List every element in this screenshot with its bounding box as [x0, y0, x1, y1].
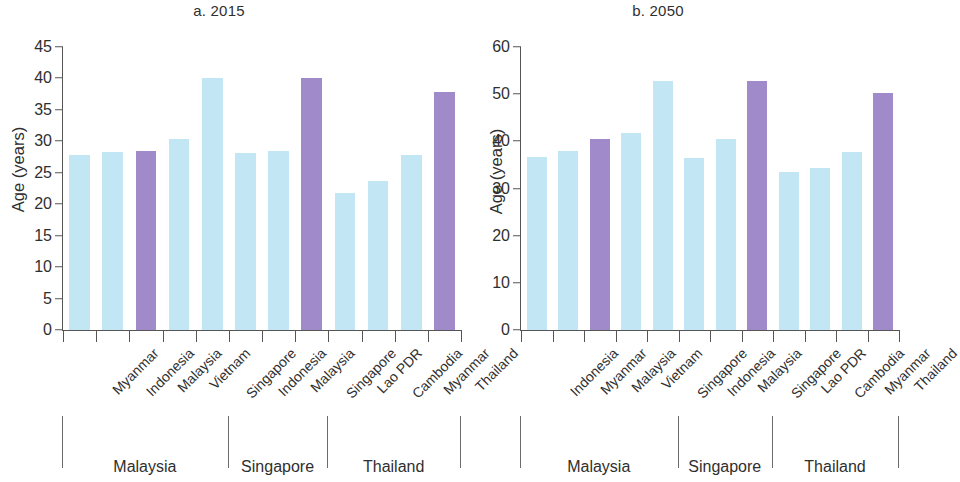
y-tick	[55, 298, 63, 299]
bar	[368, 181, 389, 330]
y-tick	[55, 109, 63, 110]
y-axis-title-right: Age (years)	[487, 102, 506, 242]
y-tick-label: 15	[34, 227, 52, 245]
x-tick	[295, 330, 296, 342]
panel-2050: b. 2050 Age (years) 0102030405060Indones…	[462, 0, 898, 482]
y-tick	[513, 141, 521, 142]
y-tick	[513, 235, 521, 236]
x-tick	[836, 330, 837, 342]
group-label: Thailand	[804, 458, 865, 476]
group-separator	[898, 416, 899, 468]
x-tick	[395, 330, 396, 342]
bar	[873, 93, 893, 330]
y-tick	[55, 78, 63, 79]
y-tick	[55, 235, 63, 236]
x-tick	[742, 330, 743, 342]
bar	[716, 139, 736, 330]
bar	[301, 78, 322, 330]
y-tick-label: 45	[34, 38, 52, 56]
group-separator	[327, 416, 328, 468]
y-axis-title-left: Age (years)	[9, 100, 28, 240]
bar	[558, 151, 578, 330]
y-tick-label: 40	[34, 69, 52, 87]
y-tick-label: 60	[492, 38, 510, 56]
bar	[842, 152, 862, 330]
y-tick	[55, 329, 63, 330]
x-tick	[584, 330, 585, 342]
group-axis-2015: MalaysiaSingaporeThailand	[62, 416, 460, 478]
group-label: Thailand	[363, 458, 424, 476]
group-axis-2050: MalaysiaSingaporeThailand	[520, 416, 898, 478]
bar	[235, 153, 256, 330]
bar	[169, 139, 190, 330]
bar-series-2050	[521, 47, 899, 330]
bar	[335, 193, 356, 330]
bar	[621, 133, 641, 330]
bar	[202, 78, 223, 330]
y-tick	[513, 46, 521, 47]
y-tick-label: 50	[492, 85, 510, 103]
group-label: Singapore	[241, 458, 314, 476]
group-separator	[228, 416, 229, 468]
x-tick	[63, 330, 64, 342]
y-tick-label: 30	[34, 132, 52, 150]
x-tick	[899, 330, 900, 342]
y-tick-label: 10	[34, 258, 52, 276]
bar	[69, 155, 90, 330]
group-label: Malaysia	[113, 458, 176, 476]
bar	[684, 158, 704, 330]
y-tick	[513, 282, 521, 283]
bar	[136, 151, 157, 330]
x-tick	[521, 330, 522, 342]
y-tick-label: 20	[34, 195, 52, 213]
bar	[527, 157, 547, 330]
x-tick	[773, 330, 774, 342]
y-tick	[55, 266, 63, 267]
x-tick	[428, 330, 429, 342]
x-tick	[710, 330, 711, 342]
plot-area-2015: 051015202530354045MyanmarIndonesiaMalays…	[62, 47, 461, 331]
y-tick-label: 0	[43, 321, 52, 339]
bar	[268, 151, 289, 330]
x-tick	[362, 330, 363, 342]
x-tick	[679, 330, 680, 342]
group-separator	[460, 416, 461, 468]
x-tick	[163, 330, 164, 342]
x-tick	[868, 330, 869, 342]
y-tick-label: 0	[501, 321, 510, 339]
bar	[590, 139, 610, 330]
bar	[810, 168, 830, 330]
y-tick-label: 10	[492, 274, 510, 292]
bar	[779, 172, 799, 330]
bar	[434, 92, 455, 330]
x-tick	[805, 330, 806, 342]
y-tick-label: 30	[492, 180, 510, 198]
bar	[747, 81, 767, 330]
group-separator	[678, 416, 679, 468]
y-tick	[513, 329, 521, 330]
plot-area-2050: 0102030405060IndonesiaMyanmarMalaysiaVie…	[520, 47, 899, 331]
y-tick-label: 35	[34, 101, 52, 119]
group-separator	[62, 416, 63, 468]
y-tick	[55, 141, 63, 142]
x-tick	[328, 330, 329, 342]
panel-title-2015: a. 2015	[0, 2, 450, 19]
x-tick	[262, 330, 263, 342]
x-tick	[196, 330, 197, 342]
group-label: Malaysia	[567, 458, 630, 476]
x-tick	[129, 330, 130, 342]
y-tick	[55, 46, 63, 47]
x-tick	[229, 330, 230, 342]
group-separator	[772, 416, 773, 468]
panel-title-2050: b. 2050	[440, 2, 876, 19]
y-tick	[513, 93, 521, 94]
group-label: Singapore	[688, 458, 761, 476]
y-tick	[55, 203, 63, 204]
bar	[401, 155, 422, 330]
bar	[102, 152, 123, 330]
y-tick-label: 5	[43, 290, 52, 308]
x-tick	[553, 330, 554, 342]
x-tick	[616, 330, 617, 342]
y-tick-label: 25	[34, 164, 52, 182]
